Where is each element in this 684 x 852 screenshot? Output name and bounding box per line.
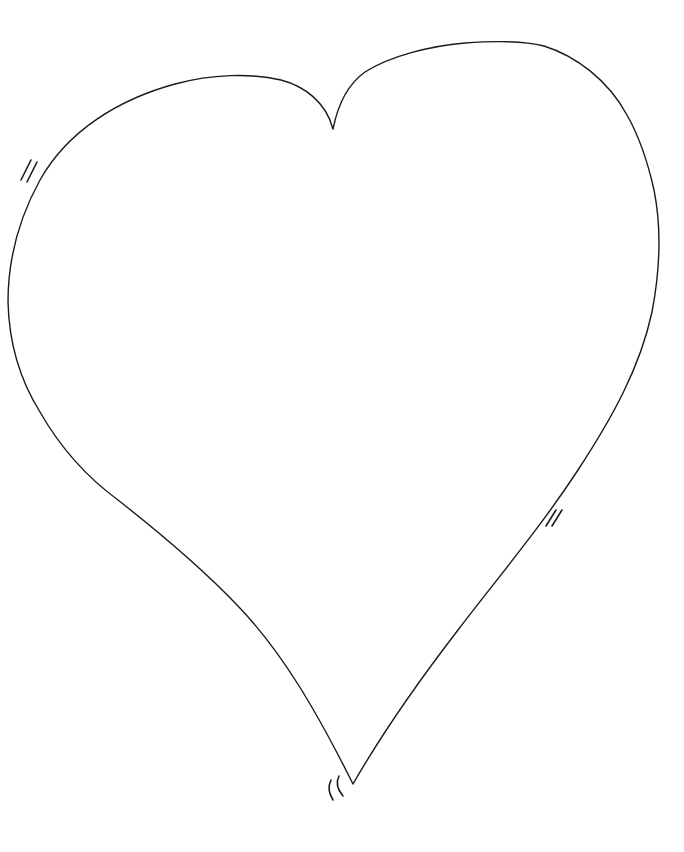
background (0, 0, 684, 852)
drawing-canvas (0, 0, 684, 852)
